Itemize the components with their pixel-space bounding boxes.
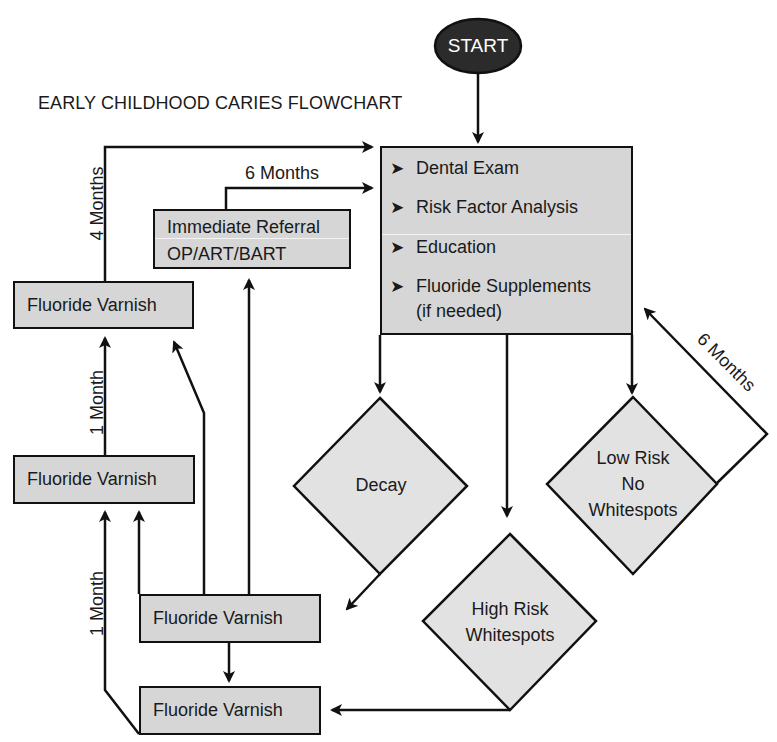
label-1-month-upper: 1 Month	[87, 363, 108, 443]
item-fluoride-supplements: ➤Fluoride Supplements	[390, 276, 591, 297]
decay-label: Decay	[355, 472, 406, 498]
divider	[155, 238, 349, 239]
item-if-needed: (if needed)	[416, 301, 502, 322]
item-risk-factor-analysis: ➤Risk Factor Analysis	[390, 197, 578, 218]
label-1-month-lower: 1 Month	[87, 564, 108, 644]
fluoride-varnish-box-4: Fluoride Varnish	[139, 686, 321, 735]
exam-box: ➤Dental Exam ➤Risk Factor Analysis ➤Educ…	[380, 146, 633, 335]
referral-line-2: OP/ART/BART	[167, 244, 286, 265]
arrow-6-months-referral	[226, 188, 372, 209]
referral-box: Immediate Referral OP/ART/BART	[153, 209, 351, 269]
arrow-bullet-icon: ➤	[390, 158, 416, 179]
arrow-1-month-lower	[105, 512, 139, 734]
label-4-months: 4 Months	[87, 159, 108, 249]
low-risk-label: Low Risk No Whitespots	[588, 445, 677, 523]
arrow-bullet-icon: ➤	[390, 197, 416, 218]
fluoride-varnish-box-1: Fluoride Varnish	[13, 281, 194, 329]
page-title: EARLY CHILDHOOD CARIES FLOWCHART	[38, 93, 402, 114]
fluoride-varnish-box-3: Fluoride Varnish	[139, 594, 321, 643]
divider	[382, 234, 631, 235]
arrow-bullet-icon: ➤	[390, 276, 416, 297]
arrow-decay-to-varnish	[347, 574, 380, 609]
label-6-months-referral: 6 Months	[245, 163, 319, 184]
referral-line-1: Immediate Referral	[167, 217, 320, 238]
fluoride-varnish-box-2: Fluoride Varnish	[13, 455, 195, 504]
start-label: START	[448, 35, 509, 57]
item-education: ➤Education	[390, 237, 496, 258]
arrow-bullet-icon: ➤	[390, 237, 416, 258]
item-dental-exam: ➤Dental Exam	[390, 158, 519, 179]
high-risk-label: High Risk Whitespots	[465, 596, 554, 648]
